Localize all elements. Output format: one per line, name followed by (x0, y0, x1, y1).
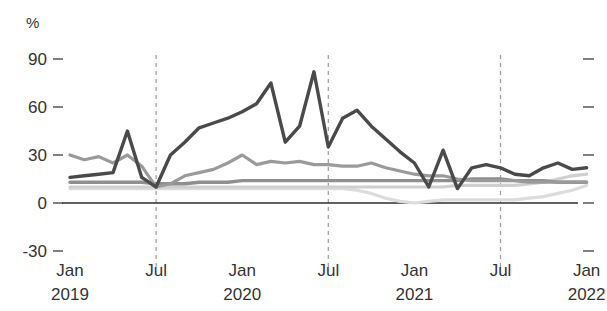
y-axis-tick-label: -30 (22, 242, 47, 261)
y-axis-left-ticks: 9060300-30 (22, 50, 63, 261)
y-axis-tick-label: 60 (28, 98, 47, 117)
x-axis-tick-month: Jul (317, 261, 339, 280)
x-axis-tick-month: Jan (56, 261, 83, 280)
x-axis-tick-year: 2021 (395, 285, 433, 304)
x-axis-tick-year: 2022 (568, 285, 606, 304)
x-axis-tick-year: 2020 (223, 285, 261, 304)
line-chart: % 9060300-30 Jan2019JulJan2020JulJan2021… (0, 0, 607, 311)
y-axis-tick-label: 30 (28, 146, 47, 165)
y-axis-unit-label-group: % (26, 14, 39, 31)
x-axis-tick-month: Jan (228, 261, 255, 280)
y-axis-tick-label: 90 (28, 50, 47, 69)
y-axis-tick-label: 0 (38, 194, 47, 213)
x-axis-tick-year: 2019 (51, 285, 89, 304)
x-axis-tick-month: Jul (490, 261, 512, 280)
y-axis-unit-label: % (26, 14, 39, 31)
y-axis-right-ticks (583, 59, 594, 251)
chart-plot-area: % 9060300-30 Jan2019JulJan2020JulJan2021… (0, 0, 607, 311)
x-axis-tick-labels: Jan2019JulJan2020JulJan2021JulJan2022 (51, 261, 605, 304)
x-axis-tick-month: Jul (145, 261, 167, 280)
x-axis-tick-month: Jan (401, 261, 428, 280)
x-axis-tick-month: Jan (573, 261, 600, 280)
